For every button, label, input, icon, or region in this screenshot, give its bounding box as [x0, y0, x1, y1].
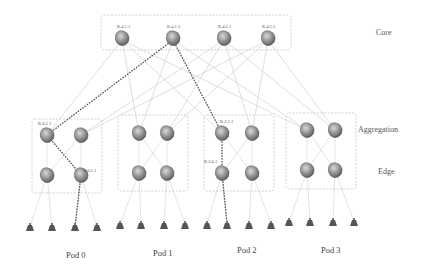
svg-text:R.4.1.1: R.4.1.1 [117, 24, 130, 29]
edge-switch: R.0.1.1 [74, 168, 96, 183]
aggregation-switch [245, 126, 259, 141]
edge-switch [40, 168, 54, 183]
pod-0-label: Pod 0 [66, 250, 86, 260]
svg-text:R.4.1.2: R.4.1.2 [167, 24, 180, 29]
pod-3-box [286, 113, 356, 189]
svg-text:R.2.2.1: R.2.2.1 [220, 119, 233, 124]
aggregation-switch [328, 123, 342, 138]
core-aggregation-links [47, 40, 335, 135]
pod-1-label: Pod 1 [153, 248, 173, 258]
core-layer-label: Core [376, 28, 392, 37]
aggregation-switch [74, 128, 88, 143]
pod-2-label: Pod 2 [237, 245, 257, 255]
pod-3-label: Pod 3 [321, 245, 341, 255]
aggregation-layer-label: Aggregation [358, 125, 398, 134]
core-switch: R.4.2.2 [261, 24, 275, 46]
svg-text:R.4.2.2: R.4.2.2 [262, 24, 275, 29]
edge-layer-label: Edge [378, 167, 395, 176]
core-switch: R.4.1.2 [166, 24, 180, 46]
aggregation-switch [132, 126, 146, 141]
fat-tree-diagram: R.4.1.1 R.4.1.2 R.4.2.1 R.4.2.2 R.0.2.1 … [0, 0, 423, 275]
core-switch: R.4.1.1 [115, 24, 130, 46]
svg-text:R.4.2.1: R.4.2.1 [218, 24, 231, 29]
edge-switch [132, 166, 146, 181]
edge-switch [160, 166, 174, 181]
svg-text:R.0.2.1: R.0.2.1 [38, 121, 51, 126]
svg-text:R.2.0.1: R.2.0.1 [204, 159, 217, 164]
aggregation-switch [160, 126, 174, 141]
edge-switch [328, 163, 342, 178]
aggregation-switch: R.2.2.1 [215, 119, 233, 141]
aggregation-switch: R.0.2.1 [38, 121, 54, 143]
aggregation-switch [300, 123, 314, 138]
edge-switch: R.2.0.1 [204, 159, 229, 181]
edge-switch [300, 163, 314, 178]
svg-text:R.0.1.1: R.0.1.1 [83, 168, 96, 173]
core-switch: R.4.2.1 [217, 24, 231, 46]
edge-switch [245, 166, 259, 181]
